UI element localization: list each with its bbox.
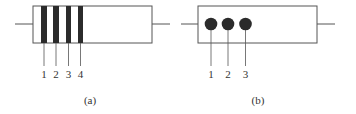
band-1 — [41, 6, 47, 43]
band-label-1: 1 — [41, 68, 47, 80]
resistor-body-a — [33, 6, 152, 43]
dot-label-1: 1 — [208, 68, 214, 80]
figure-b-color-dots: 1 2 3 (b) — [181, 6, 335, 107]
caption-b: (b) — [252, 94, 265, 107]
dot-2 — [222, 18, 235, 31]
band-label-4: 4 — [78, 68, 84, 80]
dot-3 — [239, 18, 252, 31]
band-label-3: 3 — [66, 68, 72, 80]
band-3 — [66, 6, 71, 43]
band-4 — [78, 6, 83, 43]
band-2 — [53, 6, 59, 43]
dot-label-2: 2 — [225, 68, 231, 80]
figure-a-color-bands: 1 2 3 4 (a) — [15, 6, 170, 107]
dot-1 — [205, 18, 218, 31]
band-label-2: 2 — [53, 68, 59, 80]
dot-label-3: 3 — [243, 68, 249, 80]
resistor-diagram: 1 2 3 4 (a) 1 2 3 (b) — [0, 0, 356, 114]
caption-a: (a) — [84, 94, 97, 107]
